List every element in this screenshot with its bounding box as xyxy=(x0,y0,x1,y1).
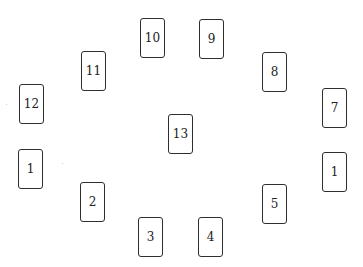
card-label: 3 xyxy=(147,230,155,244)
speck-mark xyxy=(62,163,63,164)
card-label: 5 xyxy=(271,197,279,211)
card-spread-diagram: 10 9 11 8 12 7 13 1 1 2 5 3 4 xyxy=(0,0,363,267)
card-label: 8 xyxy=(271,65,279,79)
card-label: 10 xyxy=(145,31,160,45)
card-9: 9 xyxy=(199,19,224,59)
card-5: 5 xyxy=(262,184,287,224)
card-label: 1 xyxy=(331,165,339,179)
card-13-center: 13 xyxy=(168,114,193,154)
card-1-left: 1 xyxy=(18,149,43,189)
card-1-right: 1 xyxy=(322,152,347,192)
card-label: 11 xyxy=(86,64,101,78)
card-label: 12 xyxy=(24,97,39,111)
card-label: 9 xyxy=(208,32,216,46)
card-8: 8 xyxy=(262,52,287,92)
card-10: 10 xyxy=(140,18,165,58)
card-label: 2 xyxy=(89,195,97,209)
card-label: 1 xyxy=(27,162,35,176)
card-4: 4 xyxy=(198,217,223,257)
card-11: 11 xyxy=(81,51,106,91)
card-label: 4 xyxy=(207,230,215,244)
card-label: 13 xyxy=(173,127,188,141)
card-3: 3 xyxy=(138,217,163,257)
card-2: 2 xyxy=(80,182,105,222)
speck-mark xyxy=(6,104,7,105)
card-12: 12 xyxy=(19,84,44,124)
card-7: 7 xyxy=(322,88,347,128)
card-label: 7 xyxy=(331,101,339,115)
